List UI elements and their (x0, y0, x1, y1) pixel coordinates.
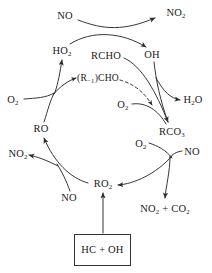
arrow-oh-to-h2o (156, 78, 180, 100)
arrow-rcho-to-rco3 (124, 58, 168, 122)
species-label-no2-top: NO2 (166, 8, 185, 19)
species-label-no2-left: NO2 (8, 149, 27, 160)
arrow-ro-to-ho2 (44, 60, 62, 122)
species-label-o2-middle: O2 (117, 100, 128, 111)
arrow-ho2-to-oh (70, 35, 146, 47)
species-label-no-bottom-left: NO (61, 193, 77, 204)
arrow-ro2-to-ro (44, 138, 88, 183)
species-label-oh: OH (144, 50, 160, 61)
species-label-no-right: NO (184, 147, 200, 158)
species-label-no-top: NO (57, 11, 73, 22)
species-label-o2-right: O2 (135, 139, 146, 150)
species-label-ro: RO (34, 124, 49, 135)
species-label-r-minus-1-cho: (R−1)CHO (77, 73, 119, 83)
diagram-canvas: NO NO2 HO2 RCHO OH (R−1)CHO O2 O2 H2O RC… (0, 0, 212, 273)
species-label-ho2: HO2 (52, 46, 71, 57)
species-label-rcho: RCHO (91, 51, 121, 62)
arrow-no-to-no2 (78, 18, 155, 28)
species-label-ro2: RO2 (94, 179, 113, 190)
source-box-label: HC + OH (81, 245, 123, 256)
source-box-hc-oh: HC + OH (74, 234, 131, 266)
arrow-rco3-to-ro2 (118, 156, 172, 185)
arrow-o2-middle-join (132, 104, 166, 124)
species-label-o2-left: O2 (7, 95, 18, 106)
species-label-h2o: H2O (183, 95, 202, 106)
arrow-o2-left-join (24, 93, 54, 99)
species-label-no2-co2: NO2 + CO2 (140, 204, 190, 215)
arrow-o2-right-join (149, 143, 172, 158)
arrow-no-right-join (170, 151, 182, 158)
species-label-rco3: RCO3 (159, 127, 185, 138)
